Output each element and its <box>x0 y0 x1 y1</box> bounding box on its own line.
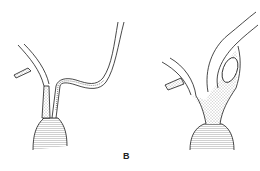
right-drawing <box>162 12 258 150</box>
panel-label: B <box>123 151 130 161</box>
figure-canvas: B <box>0 0 260 171</box>
left-drawing <box>14 22 124 150</box>
illustration <box>0 0 260 171</box>
